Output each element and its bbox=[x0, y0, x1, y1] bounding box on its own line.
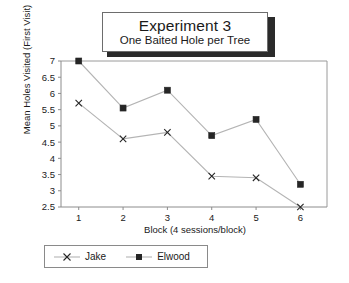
legend-label-elwood: Elwood bbox=[157, 252, 190, 262]
legend-marker-x-icon bbox=[54, 252, 80, 262]
series-jake bbox=[76, 100, 304, 210]
y-tick-label: 4 bbox=[50, 153, 55, 164]
x-tick-label: 2 bbox=[120, 212, 125, 223]
y-tick-label: 4.5 bbox=[42, 137, 55, 148]
data-point-marker bbox=[164, 87, 170, 93]
legend-entry-jake: Jake bbox=[54, 252, 106, 262]
plot-area: 2.533.544.555.566.57 123456 bbox=[0, 0, 349, 283]
y-axis-ticks: 2.533.544.555.566.57 bbox=[42, 55, 61, 212]
data-point-marker bbox=[120, 105, 126, 111]
legend-entry-elwood: Elwood bbox=[126, 252, 190, 262]
y-tick-label: 3.5 bbox=[42, 169, 55, 180]
y-tick-label: 7 bbox=[50, 55, 55, 66]
plot-frame bbox=[61, 61, 327, 207]
x-tick-label: 1 bbox=[76, 212, 81, 223]
data-point-marker bbox=[76, 58, 82, 64]
data-point-marker bbox=[253, 116, 259, 122]
x-axis-ticks: 123456 bbox=[76, 207, 303, 223]
data-point-marker bbox=[76, 100, 82, 106]
y-tick-label: 3 bbox=[50, 185, 55, 196]
data-point-marker bbox=[297, 181, 303, 187]
legend-label-jake: Jake bbox=[85, 252, 106, 262]
data-series-group bbox=[76, 58, 304, 210]
y-tick-label: 5.5 bbox=[42, 104, 55, 115]
y-tick-label: 2.5 bbox=[42, 201, 55, 212]
series-elwood bbox=[76, 58, 304, 187]
y-tick-label: 6 bbox=[50, 88, 55, 99]
y-tick-label: 6.5 bbox=[42, 72, 55, 83]
data-point-marker bbox=[209, 133, 215, 139]
x-tick-label: 4 bbox=[209, 212, 214, 223]
x-tick-label: 5 bbox=[253, 212, 258, 223]
chart-figure: Experiment 3 One Baited Hole per Tree Me… bbox=[0, 0, 349, 283]
legend-marker-square-icon bbox=[126, 252, 152, 262]
x-tick-label: 6 bbox=[298, 212, 303, 223]
chart-legend: Jake Elwood bbox=[44, 245, 208, 268]
y-tick-label: 5 bbox=[50, 120, 55, 131]
x-tick-label: 3 bbox=[165, 212, 170, 223]
